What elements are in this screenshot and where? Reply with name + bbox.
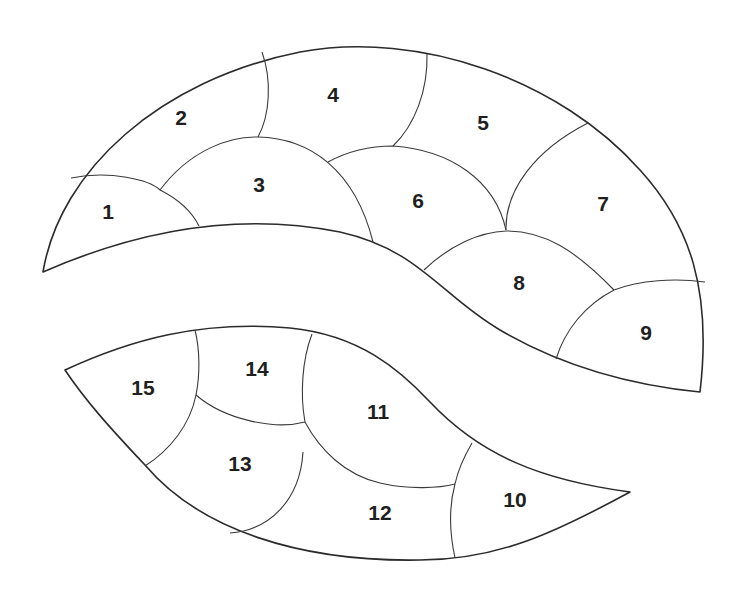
piece-label-9: 9 — [640, 321, 652, 344]
piece-label-2: 2 — [175, 106, 187, 129]
piece-label-1: 1 — [102, 200, 114, 223]
piece-label-3: 3 — [253, 173, 265, 196]
upper-section — [43, 47, 705, 392]
lower-section-outline — [65, 326, 630, 560]
piece-label-5: 5 — [477, 111, 489, 134]
piece-label-14: 14 — [245, 357, 269, 380]
piece-label-4: 4 — [327, 83, 339, 106]
piece-label-10: 10 — [503, 488, 526, 511]
piece-label-13: 13 — [228, 452, 251, 475]
lower-section — [65, 326, 630, 560]
piece-label-11: 11 — [367, 400, 390, 423]
piece-label-12: 12 — [368, 501, 391, 524]
piece-label-8: 8 — [513, 271, 525, 294]
piece-label-6: 6 — [412, 189, 424, 212]
piece-label-7: 7 — [597, 192, 609, 215]
quilt-pattern-diagram: 1 2 3 4 5 6 7 8 9 10 11 12 13 14 15 — [0, 0, 746, 596]
piece-label-15: 15 — [131, 376, 155, 399]
upper-section-outline — [43, 47, 703, 392]
